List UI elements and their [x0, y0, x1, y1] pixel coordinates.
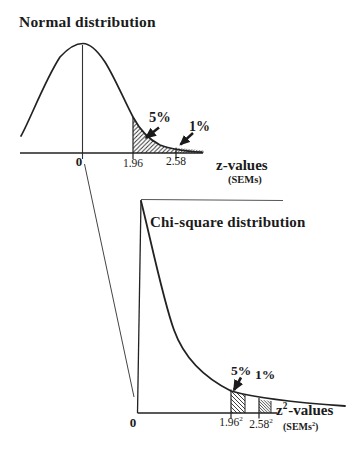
- chi-top-line: [141, 200, 283, 201]
- chi-196sq-tick-label: 1.962: [219, 417, 243, 429]
- chi-zero-tick-label: 0: [130, 416, 137, 429]
- normal-5pct-label: 5%: [149, 110, 171, 125]
- normal-x-axis-units-label: (SEMs): [228, 175, 262, 186]
- chi-1pct-shaded-region: [259, 400, 271, 414]
- normal-1pct-label: 1%: [189, 120, 210, 134]
- chi-258sq-base: 2.58: [249, 418, 269, 430]
- normal-curve: [21, 44, 202, 153]
- normal-258-tick-label: 2.58: [166, 156, 186, 168]
- normal-x-axis-label: z-values: [216, 158, 268, 173]
- chi-258sq-exponent: 2: [269, 417, 273, 425]
- chi-axis-exponent: 2: [283, 401, 288, 411]
- normal-distribution-title: Normal distribution: [19, 14, 156, 30]
- chi-x-axis-label: z2-values: [276, 403, 333, 418]
- normal-5pct-arrow: [146, 128, 159, 138]
- statistics-figure: Normal distribution 5% 1% 0 1.96 2.58 z-…: [0, 0, 350, 451]
- chi-units-close: ): [315, 421, 318, 432]
- chi-axis-z: z: [276, 402, 283, 418]
- chi-square-distribution-title: Chi-square distribution: [150, 215, 306, 230]
- chi-196sq-base: 1.96: [219, 416, 239, 428]
- chi-5pct-arrow: [234, 378, 241, 391]
- chi-196sq-exponent: 2: [239, 415, 243, 423]
- chi-x-axis-units-label: (SEMs2): [283, 422, 318, 432]
- chi-units-base: (SEMs: [283, 421, 312, 432]
- chi-5pct-label: 5%: [231, 364, 251, 378]
- chi-y-axis: [138, 200, 142, 413]
- normal-1pct-arrow: [181, 133, 194, 145]
- normal-196-tick-label: 1.96: [123, 158, 143, 170]
- chi-1pct-label: 1%: [255, 368, 275, 382]
- normal-zero-tick-label: 0: [76, 155, 83, 168]
- chi-axis-values-text: -values: [288, 402, 333, 418]
- zero-to-zero-connector-line: [85, 164, 135, 397]
- chi-258sq-tick-label: 2.582: [249, 419, 273, 431]
